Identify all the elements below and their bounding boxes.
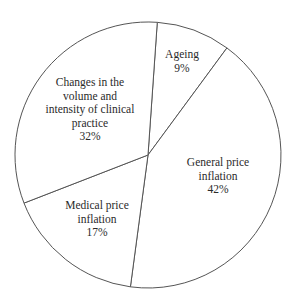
slice-label-value: 42% (187, 183, 249, 197)
slice-label-ageing: Ageing 9% (165, 48, 199, 75)
slice-label-line: intensity of clinical (46, 103, 135, 117)
slice-label-medical-price-inflation: Medical price inflation 17% (65, 199, 129, 240)
slice-label-line: Ageing (165, 48, 199, 62)
slice-label-line: volume and (46, 90, 135, 104)
slice-label-line: inflation (187, 169, 249, 183)
slice-label-line: Changes in the (46, 76, 135, 90)
slice-label-value: 9% (165, 62, 199, 76)
slice-label-line: General price (187, 156, 249, 170)
slice-label-line: Medical price (65, 199, 129, 213)
slice-label-value: 17% (65, 226, 129, 240)
slice-label-value: 32% (46, 130, 135, 144)
slice-label-general-price-inflation: General price inflation 42% (187, 156, 249, 197)
slice-label-line: inflation (65, 212, 129, 226)
slice-label-line: practice (46, 117, 135, 131)
slice-label-volume-intensity-clinical-practice: Changes in the volume and intensity of c… (46, 76, 135, 144)
pie-chart (0, 0, 295, 305)
